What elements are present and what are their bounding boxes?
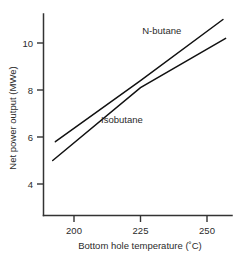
- y-axis-title: Net power output (MWe): [7, 66, 18, 169]
- data-line-isobutane: [53, 38, 226, 160]
- y-tick-label-4: 4: [28, 179, 33, 190]
- y-tick-label-6: 6: [28, 132, 33, 143]
- y-tick-label-10: 10: [22, 38, 33, 49]
- x-tick-label-225: 225: [133, 225, 149, 236]
- series-label-n-butane: N-butane: [142, 25, 181, 36]
- x-axis-title: Bottom hole temperature (˚C): [78, 240, 202, 251]
- chart-figure: 10 8 6 4 200 225 250 Bottom hole tempera…: [0, 0, 240, 261]
- x-tick-label-250: 250: [199, 225, 215, 236]
- y-tick-label-8: 8: [28, 85, 33, 96]
- series-label-isobutane: Isobutane: [101, 114, 143, 125]
- line-chart-plot: 10 8 6 4 200 225 250 Bottom hole tempera…: [0, 0, 240, 261]
- x-tick-label-200: 200: [66, 225, 82, 236]
